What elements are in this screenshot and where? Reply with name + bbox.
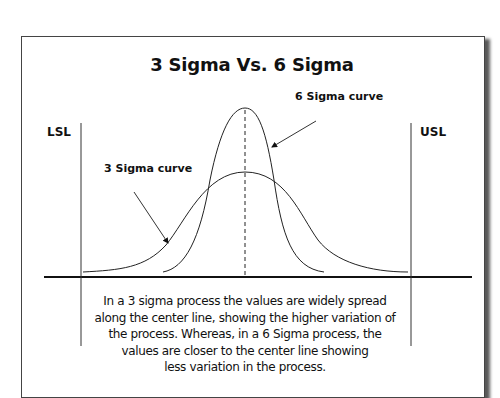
caption-line: less variation in the process. [80,359,410,376]
lsl-label: LSL [47,125,71,139]
six-sigma-curve [163,108,324,272]
caption-line: along the center line, showing the highe… [80,310,410,327]
caption-line: the process. Whereas, in a 6 Sigma proce… [80,326,410,343]
six-sigma-arrow [272,121,316,147]
caption-line: In a 3 sigma process the values are wide… [80,293,410,310]
six-sigma-curve-label: 6 Sigma curve [295,90,383,103]
three-sigma-curve-label: 3 Sigma curve [104,162,192,175]
explanation-caption: In a 3 sigma process the values are wide… [80,293,410,376]
three-sigma-arrow [134,192,168,243]
usl-label: USL [420,125,446,139]
caption-line: values are closer to the center line sho… [80,343,410,360]
